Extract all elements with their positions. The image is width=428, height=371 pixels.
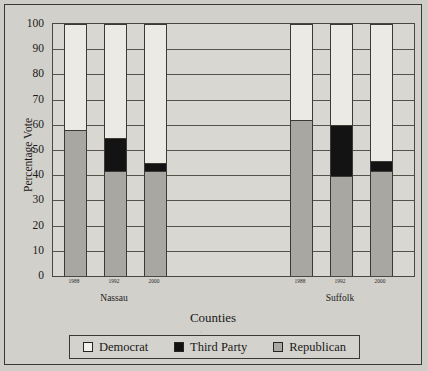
y-tick-label: 90	[33, 42, 45, 54]
chart-legend: DemocratThird PartyRepublican	[69, 335, 360, 359]
bar-segment-third-party	[105, 138, 126, 171]
page-frame: Percentage Vote 0102030405060708090100 C…	[4, 4, 422, 365]
bar-segment-democrat	[291, 25, 312, 120]
bar-suffolk-2000	[370, 24, 393, 276]
x-tick-label: 1988	[54, 278, 94, 284]
bar-segment-democrat	[105, 25, 126, 138]
plot-area	[52, 23, 415, 277]
legend-item-third-party[interactable]: Third Party	[174, 340, 247, 355]
x-tick-label: 2000	[360, 278, 400, 284]
legend-item-democrat[interactable]: Democrat	[83, 340, 148, 355]
bar-segment-third-party	[145, 163, 166, 171]
bar-suffolk-1992	[330, 24, 353, 276]
group-label-suffolk: Suffolk	[280, 293, 400, 303]
legend-swatch-icon	[174, 342, 184, 352]
y-tick-label: 40	[33, 168, 45, 180]
bar-segment-republican	[105, 171, 126, 276]
bar-segment-republican	[331, 176, 352, 276]
bar-nassau-1988	[64, 24, 87, 276]
bar-segment-democrat	[145, 25, 166, 163]
bar-segment-democrat	[371, 25, 392, 161]
bar-nassau-2000	[144, 24, 167, 276]
bar-segment-republican	[371, 171, 392, 276]
y-tick-label: 20	[33, 219, 45, 231]
legend-label: Democrat	[99, 340, 148, 355]
bar-segment-democrat	[65, 25, 86, 130]
y-tick-label: 80	[33, 67, 45, 79]
legend-swatch-icon	[273, 342, 283, 352]
y-tick-label: 30	[33, 193, 45, 205]
y-tick-label: 60	[33, 118, 45, 130]
y-tick-label: 0	[38, 269, 44, 281]
legend-item-republican[interactable]: Republican	[273, 340, 346, 355]
x-axis-title: Counties	[5, 310, 421, 326]
y-tick-label: 10	[33, 244, 45, 256]
x-tick-label: 1992	[94, 278, 134, 284]
y-tick-label: 50	[33, 143, 45, 155]
legend-label: Republican	[289, 340, 346, 355]
bar-segment-republican	[291, 120, 312, 276]
legend-label: Third Party	[190, 340, 247, 355]
y-axis-tick-labels: 0102030405060708090100	[5, 23, 48, 275]
bar-segment-republican	[65, 130, 86, 276]
bar-nassau-1992	[104, 24, 127, 276]
bar-suffolk-1988	[290, 24, 313, 276]
bar-segment-third-party	[331, 125, 352, 175]
group-label-nassau: Nassau	[54, 293, 174, 303]
x-tick-label: 2000	[134, 278, 174, 284]
bar-segment-republican	[145, 171, 166, 276]
y-tick-label: 100	[27, 17, 44, 29]
y-tick-label: 70	[33, 93, 45, 105]
legend-swatch-icon	[83, 342, 93, 352]
bar-segment-third-party	[371, 161, 392, 171]
bar-segment-democrat	[331, 25, 352, 125]
x-tick-label: 1992	[320, 278, 360, 284]
x-tick-label: 1988	[280, 278, 320, 284]
